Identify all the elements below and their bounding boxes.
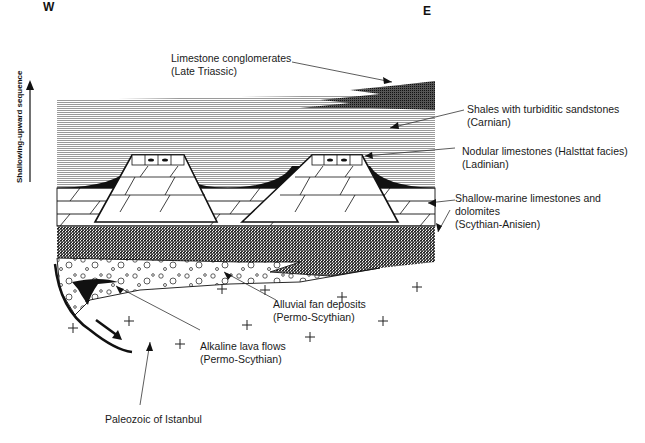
label-paleozoic: Paleozoic of Istanbul xyxy=(105,413,202,426)
label-shallow-marine: Shallow-marine limestones and dolomites … xyxy=(455,192,601,231)
label-limestone-conglomerates: Limestone conglomerates (Late Triassic) xyxy=(171,52,291,78)
label-nodular-limestones: Nodular limestones (Halsttat facies) (La… xyxy=(462,145,628,171)
label-alluvial-fan: Alluvial fan deposits (Permo-Scythian) xyxy=(273,298,366,324)
label-alkaline-lava: Alkaline lava flows (Permo-Scythian) xyxy=(200,340,286,366)
fault-arrow xyxy=(96,320,118,336)
label-shales: Shales with turbiditic sandstones (Carni… xyxy=(467,103,619,129)
west-label: W xyxy=(43,0,54,14)
shallowing-label: Shallowing-upward sequence xyxy=(15,71,24,183)
east-label: E xyxy=(423,4,431,18)
